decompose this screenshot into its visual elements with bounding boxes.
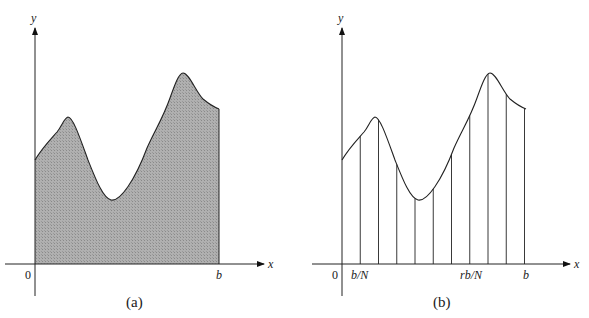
shaded-area (35, 73, 219, 264)
tick-label-b-over-n: b/N (351, 268, 369, 282)
panel-b: y x 0 b/N rb/N b (b) (312, 11, 580, 311)
riemann-sum-figure: y x 0 b (a) y x 0 b/N rb/N b (b) (0, 0, 589, 318)
caption-a: (a) (126, 294, 143, 311)
b-label: b (216, 268, 222, 282)
tick-label-rb-over-n: rb/N (460, 268, 483, 282)
x-axis-label: x (267, 257, 274, 271)
caption-b: (b) (433, 294, 451, 311)
y-axis-label: y (337, 11, 344, 25)
panel-a: y x 0 b (a) (5, 11, 274, 311)
origin-label: 0 (332, 268, 338, 282)
x-axis-label: x (573, 257, 580, 271)
tick-label-b: b (523, 268, 529, 282)
strip-lines (360, 74, 524, 264)
origin-label: 0 (25, 268, 31, 282)
curve-f (342, 73, 526, 200)
y-axis-label: y (30, 11, 37, 25)
